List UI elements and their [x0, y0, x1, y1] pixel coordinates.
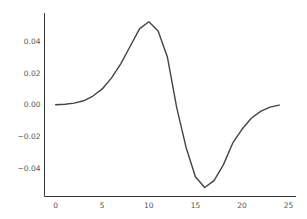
x-tick-label: 25: [284, 201, 294, 210]
y-axis-ticks: 0.040.020.00−0.02−0.04: [18, 37, 41, 173]
x-tick-label: 10: [144, 201, 154, 210]
y-tick-label: −0.02: [18, 132, 41, 141]
y-tick-label: 0.02: [24, 69, 41, 78]
x-tick-label: 5: [100, 201, 105, 210]
x-tick-label: 0: [53, 201, 58, 210]
series-line: [56, 22, 280, 188]
x-tick-label: 20: [237, 201, 247, 210]
x-tick-label: 15: [191, 201, 201, 210]
series-layer: [56, 22, 280, 188]
y-tick-label: −0.04: [18, 164, 41, 173]
x-axis-ticks: 0510152025: [53, 201, 293, 210]
line-chart: 0.040.020.00−0.02−0.04 0510152025: [0, 0, 307, 219]
y-tick-label: 0.00: [24, 100, 41, 109]
y-tick-label: 0.04: [24, 37, 41, 46]
